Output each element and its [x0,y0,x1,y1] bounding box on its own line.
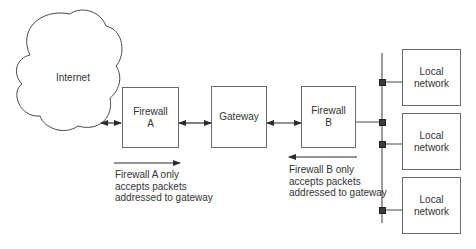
firewall-b-annotation: Firewall B only accepts packets addresse… [289,164,387,199]
local-network-2-line2: network [414,142,449,154]
firewall-a-label-line1: Firewall [133,106,167,118]
firewall-b-annotation-line3: addressed to gateway [289,187,387,199]
bus-connector-2 [379,141,386,148]
firewall-b-annotation-line1: Firewall B only [289,164,387,176]
local-network-box-1: Local network [402,49,461,106]
local-network-box-2: Local network [402,113,461,170]
internet-cloud-shape [16,10,122,131]
gateway-label: Gateway [219,111,258,123]
firewall-b-label-line1: Firewall [311,105,345,117]
local-network-1-line1: Local [414,66,449,78]
gateway-box: Gateway [211,86,267,148]
bus-connector-1 [379,79,386,86]
local-network-3-line1: Local [414,194,449,206]
firewall-b-annotation-line2: accepts packets [289,176,387,188]
firewall-a-annotation-line2: accepts packets [115,181,213,193]
bus-connector-firewall-b [379,119,386,126]
local-network-2-line1: Local [414,130,449,142]
firewall-a-label-line2: A [133,118,167,130]
firewall-a-annotation: Firewall A only accepts packets addresse… [115,169,213,204]
bus-connector-3 [379,207,386,214]
firewall-a-box: Firewall A [122,87,179,148]
local-network-box-3: Local network [402,177,461,234]
local-network-1-line2: network [414,78,449,90]
firewall-b-box: Firewall B [301,86,356,148]
firewall-a-annotation-line1: Firewall A only [115,169,213,181]
firewall-a-annotation-line3: addressed to gateway [115,192,213,204]
firewall-b-label-line2: B [311,117,345,129]
internet-label: Internet [56,72,90,83]
local-network-3-line2: network [414,206,449,218]
